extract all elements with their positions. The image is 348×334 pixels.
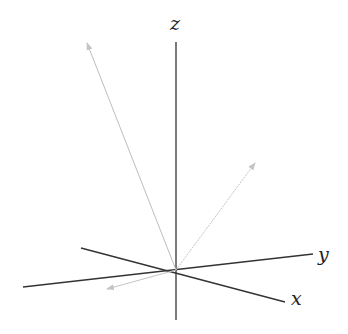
vector-up-right — [176, 163, 255, 270]
z-axis-label: z — [170, 14, 180, 33]
axes-canvas — [0, 0, 348, 334]
x-axis — [81, 248, 285, 302]
vector-down-left — [107, 270, 176, 289]
x-axis-label: x — [291, 289, 302, 308]
vector-up-left — [87, 43, 176, 270]
y-axis-label: y — [318, 245, 329, 264]
axes-diagram: z y x — [0, 0, 348, 334]
